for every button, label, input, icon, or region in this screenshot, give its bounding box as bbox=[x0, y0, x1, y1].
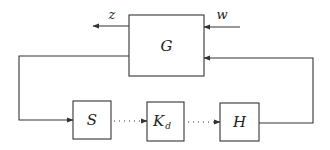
block-s-label: S bbox=[87, 111, 97, 129]
block-h-label: H bbox=[232, 113, 247, 131]
block-kd-subscript: d bbox=[165, 121, 171, 131]
block-g-label: G bbox=[161, 37, 173, 55]
block-diagram: G z w S Kd H bbox=[0, 0, 330, 150]
input-w-signal: w bbox=[204, 7, 240, 27]
w-label: w bbox=[216, 7, 227, 22]
block-kd: Kd bbox=[147, 102, 184, 141]
block-kd-main: K bbox=[152, 112, 165, 130]
block-h: H bbox=[220, 103, 259, 141]
block-g: G bbox=[129, 15, 204, 76]
output-z-signal: z bbox=[93, 7, 129, 26]
block-s: S bbox=[73, 101, 111, 139]
z-label: z bbox=[108, 7, 116, 22]
